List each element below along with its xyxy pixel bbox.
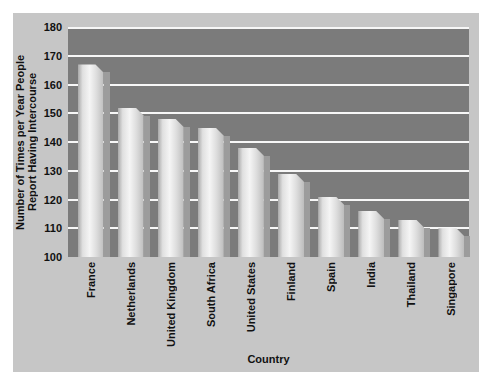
bar-singapore	[438, 228, 464, 257]
chart-image: Number of Times per Year People Report H…	[0, 0, 488, 389]
bar-shadow-5	[304, 182, 310, 257]
bar-finland	[278, 174, 304, 257]
y-tick-label-180: 180	[13, 21, 62, 33]
gridline-180	[68, 27, 469, 29]
category-label-united-kingdom: United Kingdom	[165, 262, 177, 347]
bar-shadow-1	[144, 116, 150, 258]
gridline-160	[68, 84, 469, 86]
y-tick-label-170: 170	[13, 50, 62, 62]
bar-south-africa	[198, 128, 224, 257]
bar-shadow-9	[464, 236, 470, 257]
bar-thailand	[398, 220, 424, 257]
chart-panel: Number of Times per Year People Report H…	[13, 13, 479, 372]
bar-shadow-4	[264, 156, 270, 257]
y-tick-label-130: 130	[13, 165, 62, 177]
category-label-finland: Finland	[285, 262, 297, 301]
bar-shadow-0	[104, 72, 110, 257]
bar-united-kingdom	[158, 119, 184, 257]
bar-shadow-6	[344, 205, 350, 257]
bar-shadow-8	[424, 228, 430, 257]
bar-shadow-7	[384, 219, 390, 257]
bar-shadow-2	[184, 127, 190, 257]
category-label-thailand: Thailand	[405, 262, 417, 307]
category-label-spain: Spain	[325, 262, 337, 292]
category-label-france: France	[85, 262, 97, 298]
category-label-united-states: United States	[245, 262, 257, 332]
y-tick-label-110: 110	[13, 222, 62, 234]
y-tick-label-150: 150	[13, 107, 62, 119]
bar-spain	[318, 197, 344, 257]
category-label-south-africa: South Africa	[205, 262, 217, 327]
plot-area	[68, 27, 469, 257]
bar-united-states	[238, 148, 264, 257]
y-tick-label-120: 120	[13, 194, 62, 206]
category-label-singapore: Singapore	[445, 262, 457, 316]
bar-india	[358, 211, 384, 257]
x-axis-title: Country	[68, 353, 469, 365]
y-tick-label-160: 160	[13, 79, 62, 91]
bar-france	[78, 64, 104, 257]
category-label-netherlands: Netherlands	[125, 262, 137, 326]
gridline-170	[68, 55, 469, 57]
bar-netherlands	[118, 108, 144, 258]
category-label-india: India	[365, 262, 377, 288]
y-tick-label-100: 100	[13, 251, 62, 263]
y-tick-label-140: 140	[13, 136, 62, 148]
bar-shadow-3	[224, 136, 230, 257]
